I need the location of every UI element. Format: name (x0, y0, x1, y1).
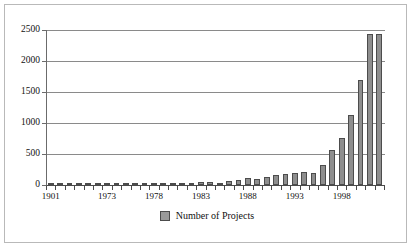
x-tick-label: 1973 (87, 191, 127, 201)
x-tick-mark (65, 186, 66, 190)
x-tick-mark (196, 186, 197, 190)
y-tick-label: 2500 (2, 24, 40, 34)
x-tick-label: 1978 (134, 191, 174, 201)
x-tick-mark (168, 186, 169, 190)
bar (151, 183, 157, 185)
bar (67, 183, 73, 185)
x-tick-mark (149, 186, 150, 190)
bar (57, 183, 63, 185)
x-tick-mark (262, 186, 263, 190)
x-tick-mark (112, 186, 113, 190)
x-tick-mark (177, 186, 178, 190)
chart-legend: Number of Projects (0, 210, 414, 221)
bar (236, 180, 242, 185)
x-tick-mark (74, 186, 75, 190)
x-tick-mark (224, 186, 225, 190)
x-tick-label: 1993 (275, 191, 315, 201)
x-tick-mark (309, 186, 310, 190)
x-tick-mark (375, 186, 376, 190)
x-tick-mark (253, 186, 254, 190)
y-tick-label: 1500 (2, 86, 40, 96)
x-tick-label: 1983 (181, 191, 221, 201)
bar (339, 138, 345, 185)
bar (142, 183, 148, 185)
y-tick-label: 0 (2, 179, 40, 189)
bar (179, 183, 185, 185)
bar (301, 172, 307, 185)
x-tick-mark (328, 186, 329, 190)
bar-chart: 05001000150020002500 1901197319781983198… (0, 0, 414, 249)
bar (292, 173, 298, 185)
x-tick-mark (337, 186, 338, 190)
x-tick-mark (84, 186, 85, 190)
bar (329, 150, 335, 185)
bar (76, 183, 82, 185)
bar (104, 183, 110, 185)
bar (123, 183, 129, 185)
x-tick-mark (121, 186, 122, 190)
bar (189, 183, 195, 185)
y-tick-label: 1000 (2, 117, 40, 127)
bar (264, 177, 270, 185)
bar (226, 181, 232, 185)
x-tick-mark (215, 186, 216, 190)
x-tick-mark (300, 186, 301, 190)
bar (198, 182, 204, 185)
x-tick-label: 1901 (31, 191, 71, 201)
bar (48, 183, 54, 185)
bar (85, 183, 91, 185)
x-tick-mark (140, 186, 141, 190)
bar (207, 182, 213, 185)
bar (114, 183, 120, 185)
bar (376, 34, 382, 185)
x-tick-mark (131, 186, 132, 190)
x-tick-label: 1998 (322, 191, 362, 201)
bar (367, 34, 373, 185)
bar-series (46, 30, 384, 185)
y-tick-label: 2000 (2, 55, 40, 65)
x-tick-mark (384, 186, 385, 190)
x-tick-mark (206, 186, 207, 190)
bar (283, 174, 289, 185)
bar (320, 165, 326, 185)
x-tick-mark (281, 186, 282, 190)
x-tick-mark (93, 186, 94, 190)
bar (254, 179, 260, 185)
x-tick-mark (318, 186, 319, 190)
x-tick-mark (234, 186, 235, 190)
bar (95, 183, 101, 185)
x-tick-mark (46, 186, 47, 190)
x-tick-mark (159, 186, 160, 190)
bar (217, 183, 223, 185)
bar (358, 80, 364, 185)
bar (245, 178, 251, 185)
x-tick-mark (187, 186, 188, 190)
x-tick-mark (356, 186, 357, 190)
bar (132, 183, 138, 185)
legend-label: Number of Projects (176, 210, 254, 221)
x-tick-mark (243, 186, 244, 190)
x-tick-mark (290, 186, 291, 190)
x-tick-mark (346, 186, 347, 190)
bar (273, 175, 279, 185)
bar (348, 115, 354, 185)
x-tick-mark (365, 186, 366, 190)
bar (311, 173, 317, 185)
y-tick-label: 500 (2, 148, 40, 158)
legend-swatch-icon (160, 211, 170, 221)
bar (160, 183, 166, 185)
x-tick-label: 1988 (228, 191, 268, 201)
x-tick-mark (102, 186, 103, 190)
bar (170, 183, 176, 185)
x-axis-labels: 1901197319781983198819931998 (0, 191, 414, 205)
x-tick-mark (55, 186, 56, 190)
x-tick-mark (271, 186, 272, 190)
